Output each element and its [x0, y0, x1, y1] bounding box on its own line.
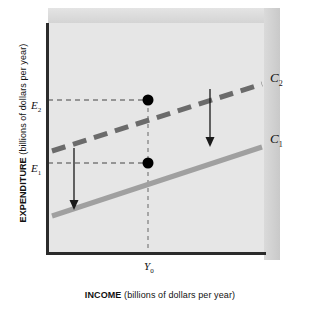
point-e2	[143, 95, 154, 106]
x-tick-label-y0: Y0	[144, 260, 154, 275]
plot-area	[48, 23, 264, 253]
y-axis-line	[46, 23, 49, 255]
y-tick-label-e1: E1	[31, 162, 41, 177]
point-e1	[143, 158, 154, 169]
curve-label-c1: C1	[270, 131, 283, 149]
arrow-right-shift	[206, 89, 215, 147]
y-axis-title: EXPENDITURE (billions of dollars per yea…	[18, 18, 28, 248]
box-top-face	[48, 8, 280, 24]
curve-c1	[52, 147, 262, 216]
y-tick-label-e2: E2	[31, 99, 41, 114]
plot-svg	[48, 23, 264, 253]
expenditure-income-chart: E2 E1 Y0 C2 C1 EXPENDITURE (billions of …	[0, 0, 320, 311]
curve-label-c2: C2	[270, 70, 283, 88]
arrow-left-shift	[70, 148, 79, 210]
x-axis-line	[46, 252, 266, 255]
curve-c2	[52, 84, 262, 151]
x-axis-title: INCOME (billions of dollars per year)	[0, 290, 320, 300]
